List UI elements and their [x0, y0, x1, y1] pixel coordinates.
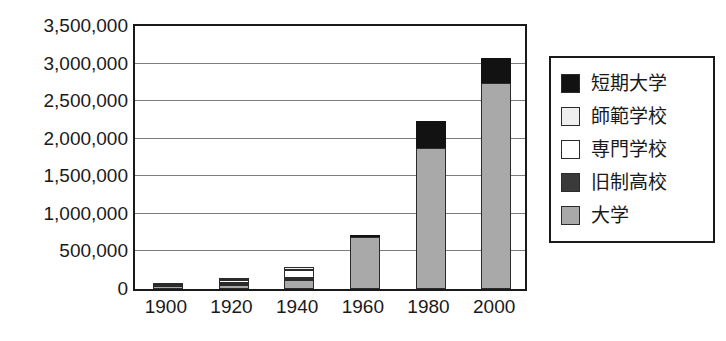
legend: 短期大学師範学校専門学校旧制高校大学: [549, 56, 715, 243]
chart-container: 3,500,0003,000,0002,500,0002,000,0001,50…: [0, 0, 726, 341]
bar-segment[interactable]: [153, 286, 183, 289]
y-axis-tick-label: 500,000: [59, 241, 128, 260]
x-axis-tick-label: 1940: [264, 296, 330, 318]
bar-segment[interactable]: [350, 237, 380, 289]
x-axis-tick-label: 1920: [199, 296, 265, 318]
x-axis-tick-label: 1960: [330, 296, 396, 318]
legend-item-label: 大学: [591, 205, 629, 226]
bar-segment[interactable]: [284, 270, 314, 278]
bar-group[interactable]: [481, 26, 511, 289]
legend-swatch-icon: [561, 173, 580, 192]
legend-item[interactable]: 旧制高校: [561, 166, 705, 199]
x-axis: 190019201940196019802000: [133, 296, 527, 326]
legend-item[interactable]: 師範学校: [561, 100, 705, 133]
bar-group[interactable]: [153, 26, 183, 289]
y-axis-tick-label: 2,000,000: [43, 129, 128, 148]
x-axis-tick-label: 1900: [133, 296, 199, 318]
y-axis-tick-label: 3,000,000: [43, 54, 128, 73]
legend-swatch-icon: [561, 107, 580, 126]
bar-segment[interactable]: [284, 278, 314, 280]
legend-item[interactable]: 短期大学: [561, 67, 705, 100]
bar-segment[interactable]: [219, 280, 249, 283]
bar-group[interactable]: [284, 26, 314, 289]
y-axis-tick-label: 3,500,000: [43, 16, 128, 35]
bars-layer: [135, 26, 525, 289]
bar-segment[interactable]: [416, 148, 446, 289]
y-axis: 3,500,0003,000,0002,500,0002,000,0001,50…: [0, 0, 128, 341]
bar-segment[interactable]: [284, 280, 314, 289]
legend-item[interactable]: 大学: [561, 199, 705, 232]
y-axis-tick-label: 1,500,000: [43, 166, 128, 185]
legend-item-label: 短期大学: [591, 73, 667, 94]
bar-group[interactable]: [219, 26, 249, 289]
legend-item[interactable]: 専門学校: [561, 133, 705, 166]
bar-segment[interactable]: [284, 267, 314, 270]
legend-swatch-icon: [561, 140, 580, 159]
bar-segment[interactable]: [416, 121, 446, 148]
y-axis-tick-label: 0: [117, 279, 128, 298]
y-axis-tick-label: 1,000,000: [43, 204, 128, 223]
legend-swatch-icon: [561, 74, 580, 93]
bar-segment[interactable]: [153, 283, 183, 285]
plot-area: [133, 24, 527, 291]
legend-swatch-icon: [561, 206, 580, 225]
legend-item-label: 師範学校: [591, 106, 667, 127]
bar-segment[interactable]: [219, 278, 249, 280]
bar-group[interactable]: [350, 26, 380, 289]
legend-item-label: 専門学校: [591, 139, 667, 160]
legend-item-label: 旧制高校: [591, 172, 667, 193]
bar-segment[interactable]: [350, 235, 380, 237]
bar-group[interactable]: [416, 26, 446, 289]
y-axis-tick-label: 2,500,000: [43, 91, 128, 110]
x-axis-tick-label: 2000: [461, 296, 527, 318]
bar-segment[interactable]: [481, 83, 511, 289]
bar-segment[interactable]: [219, 285, 249, 290]
x-axis-tick-label: 1980: [396, 296, 462, 318]
bar-segment[interactable]: [481, 58, 511, 84]
